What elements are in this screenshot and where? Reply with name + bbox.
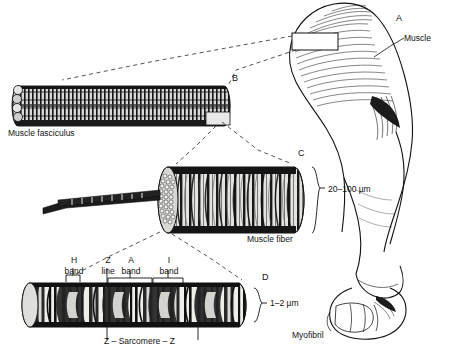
muscle-fasciculus-illustration (12, 84, 234, 126)
fiber-dimension-brace (312, 167, 325, 233)
i-band-name: I (165, 255, 173, 265)
h-band-name: H (69, 255, 79, 265)
h-band-sub: band (60, 266, 88, 276)
myofibril-dimension-brace (254, 288, 267, 322)
fiber-dimension-label: 20–100 µm (328, 184, 371, 194)
muscle-structure-figure: A Muscle B Muscle fasciculus C Muscle fi… (0, 0, 464, 349)
arm-illustration (290, 3, 413, 339)
a-band-name: A (126, 255, 136, 265)
i-band-sub: band (155, 266, 183, 276)
figure-artwork (0, 0, 464, 349)
extracted-myofibril-strand (43, 190, 160, 214)
myofibril-caption: Myofibril (292, 330, 324, 340)
a-band-sub: band (117, 266, 145, 276)
muscle-fasciculus-caption: Muscle fasciculus (8, 128, 75, 138)
muscle-callout-label: Muscle (404, 33, 431, 43)
muscle-fiber-illustration (158, 166, 304, 234)
panel-b-letter: B (232, 73, 238, 83)
panel-d-letter: D (262, 272, 269, 282)
panel-c-letter: C (298, 148, 305, 158)
myofibril-dimension-label: 1–2 µm (270, 298, 299, 308)
panel-a-letter: A (396, 13, 402, 23)
myofibril-illustration (10, 282, 246, 328)
muscle-fiber-caption: Muscle fiber (247, 234, 293, 244)
sarcomere-label: Z – Sarcomere – Z (104, 336, 175, 346)
z-line-name: Z (103, 255, 113, 265)
muscle-callout-leader (374, 38, 404, 57)
